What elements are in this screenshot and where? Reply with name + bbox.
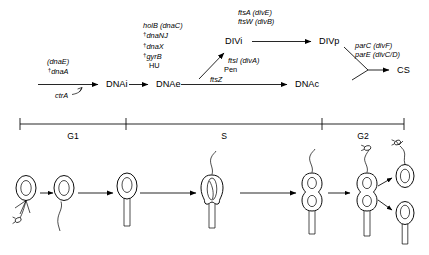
line-dnac-to-junction xyxy=(352,70,368,80)
gene-group-initiation-genes: (dnaE) †dnaA xyxy=(47,57,69,77)
gene-group-division-progression-genes: ftsA (divE) ftsW (divB) xyxy=(238,8,274,27)
timeline-phase-g2: G2 xyxy=(343,131,383,141)
cell-replicating-cell xyxy=(201,151,223,228)
gene-group-elongation-genes: holB (dnaC) †dnaNJ †dnaX †gyrB HU xyxy=(143,21,183,71)
cell-dividing-cell xyxy=(357,145,377,236)
pathway-node-dnae: DNAe xyxy=(156,80,181,89)
cell-cycle-timeline xyxy=(20,118,404,130)
pathway-node-cs: CS xyxy=(397,66,410,75)
gene-group-division-initiation-genes: ftsI (divA) Pen ftsZ xyxy=(219,56,259,84)
cell-cycle-diagram: DNAi DNAe DNAc DIVi DIVp CS (dnaE) †dnaA… xyxy=(0,0,429,255)
cell-daughter-stalked-cell xyxy=(396,202,414,245)
arrow-release-swarmer xyxy=(378,178,392,186)
cell-swarmer-cell xyxy=(13,176,36,224)
gene-line: parC (divF) xyxy=(355,41,400,50)
gene-group-separation-genes: parC (divF) parE (divC/D) xyxy=(355,41,400,60)
gene-line: holB (dnaC) xyxy=(143,21,183,30)
gene-line: ftsW (divB) xyxy=(238,17,274,26)
gene-line: HU xyxy=(143,61,183,70)
pathway-arrows xyxy=(38,42,389,95)
pathway-node-divi: DIVi xyxy=(225,37,242,46)
pathway-node-divp: DIVp xyxy=(319,37,339,46)
gene-line: †dnaX xyxy=(143,41,183,51)
gene-line: ftsA (divE) xyxy=(238,8,274,17)
cell-stalked-cell xyxy=(117,173,137,226)
timeline-phase-g1: G1 xyxy=(53,131,93,141)
gene-line: †gyrB xyxy=(143,51,183,61)
gene-line: ftsZ xyxy=(210,75,259,84)
regulator-label-ctra: ctrA xyxy=(55,91,68,100)
timeline-phase-s: S xyxy=(204,131,244,141)
cell-shedding-flagellum-cell xyxy=(54,176,74,232)
gene-line: ftsI (divA) xyxy=(219,56,259,65)
cell-daughter-swarmer-cell xyxy=(392,139,414,187)
arrow-release-stalked xyxy=(378,200,392,210)
gene-line: parE (divC/D) xyxy=(355,50,400,59)
pointer-ctra xyxy=(72,88,82,95)
pathway-node-dnac: DNAc xyxy=(295,80,319,89)
pathway-node-dnai: DNAi xyxy=(106,80,127,89)
gene-line: Pen xyxy=(219,65,259,74)
diagram-vector-layer xyxy=(0,0,429,255)
cell-predivisional-cell xyxy=(302,149,322,234)
gene-line: †dnaA xyxy=(47,66,69,76)
gene-line: †dnaNJ xyxy=(143,30,183,40)
gene-line: (dnaE) xyxy=(47,57,69,66)
